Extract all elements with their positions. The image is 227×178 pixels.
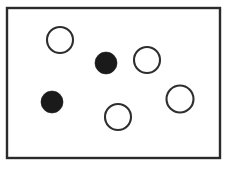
- rectangle-border: [7, 8, 220, 158]
- figure-canvas: [0, 0, 227, 178]
- circle-open-bottom-center: [105, 104, 131, 130]
- circles-diagram: [0, 0, 227, 178]
- circle-open-top-left: [47, 27, 73, 53]
- circle-open-right: [167, 86, 194, 113]
- circle-open-top-right: [134, 47, 160, 73]
- circle-filled-center-top: [95, 52, 117, 74]
- circle-filled-left: [41, 91, 63, 113]
